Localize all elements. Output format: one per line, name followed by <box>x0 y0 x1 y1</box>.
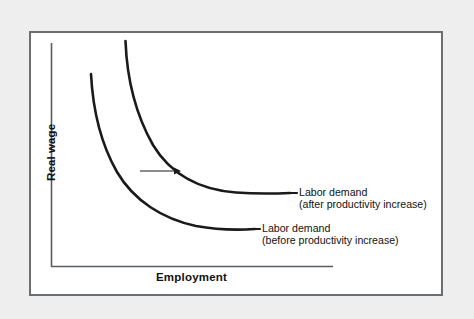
x-axis-title: Employment <box>156 271 227 283</box>
chart-canvas <box>0 0 474 319</box>
curve-label-after-line2: (after productivity increase) <box>299 198 427 210</box>
figure-root: Real wage Employment Labor demand (after… <box>0 0 474 319</box>
y-axis-title: Real wage <box>45 124 57 181</box>
curve-label-before-line2: (before productivity increase) <box>262 234 399 246</box>
curve-label-after-productivity-increase: Labor demand (after productivity increas… <box>299 186 427 211</box>
rightward-shift-arrow <box>140 168 181 175</box>
labor-demand-curve-before <box>91 74 255 230</box>
curve-label-before-line1: Labor demand <box>262 222 399 234</box>
curve-label-after-line1: Labor demand <box>299 186 427 198</box>
curve-label-before-productivity-increase: Labor demand (before productivity increa… <box>262 222 399 247</box>
